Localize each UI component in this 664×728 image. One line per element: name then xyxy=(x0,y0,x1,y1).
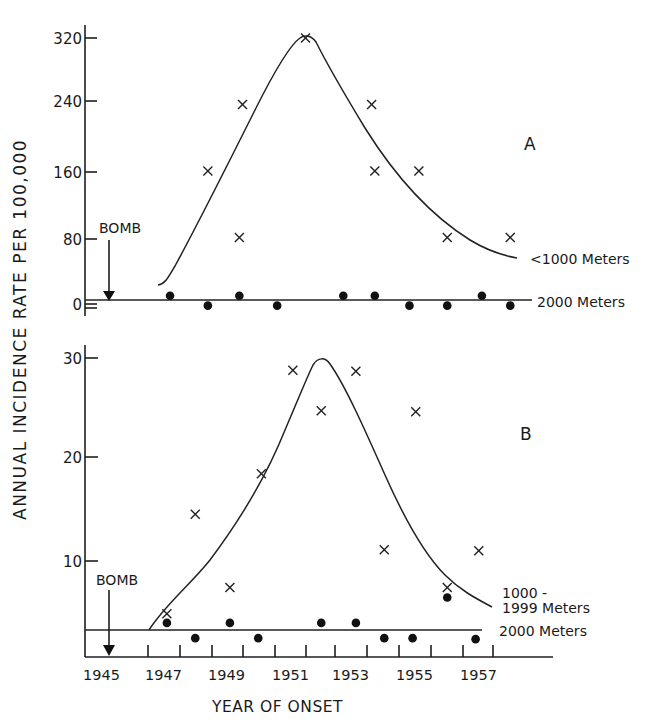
panel-b-fitted-curve xyxy=(149,359,492,630)
x-marker xyxy=(301,34,310,43)
dot-marker xyxy=(204,301,213,310)
panel-b-points xyxy=(162,366,483,644)
panel-a-y-ticks: 320 240 160 80 0 xyxy=(53,30,97,314)
panel-a: 320 240 160 80 0 BOMB A <1000 Meters 200… xyxy=(53,25,629,316)
panel-a-points xyxy=(166,34,515,310)
dot-marker xyxy=(380,634,389,643)
x-tick-label: 1949 xyxy=(208,667,245,683)
tick-label: 320 xyxy=(53,30,82,48)
x-tick-label: 1955 xyxy=(396,667,433,683)
legend-label-1000-1999m-line1: 1000 - xyxy=(502,585,547,601)
x-marker xyxy=(411,407,420,416)
x-marker xyxy=(474,546,483,555)
dot-marker xyxy=(235,291,244,300)
dot-marker xyxy=(163,619,172,628)
x-marker xyxy=(191,510,200,519)
dot-marker xyxy=(166,291,175,300)
tick-label: 20 xyxy=(63,449,82,467)
x-tick-label: 1947 xyxy=(145,667,182,683)
panel-a-fitted-curve xyxy=(158,36,517,285)
legend-label-1000-1999m-line2: 1999 Meters xyxy=(502,600,590,616)
dot-marker xyxy=(443,301,452,310)
tick-label: 0 xyxy=(72,296,82,314)
legend-label-2000m-a: 2000 Meters xyxy=(537,294,625,310)
panel-b-x-ticks: 1945 1947 1949 1951 1953 1955 1957 xyxy=(83,645,497,683)
x-tick-label: 1953 xyxy=(332,667,369,683)
x-marker xyxy=(367,100,376,109)
dot-marker xyxy=(405,301,414,310)
x-marker xyxy=(235,233,244,242)
tick-label: 80 xyxy=(63,231,82,249)
x-marker xyxy=(225,583,234,592)
dot-marker xyxy=(226,619,235,628)
x-marker xyxy=(370,167,379,176)
x-tick-label: 1945 xyxy=(83,667,120,683)
bomb-label: BOMB xyxy=(99,220,141,236)
x-marker xyxy=(238,100,247,109)
x-tick-label: 1951 xyxy=(272,667,309,683)
x-marker xyxy=(162,609,171,618)
panel-a-title: A xyxy=(524,134,536,154)
legend-label-2000m-b: 2000 Meters xyxy=(499,623,587,639)
x-marker xyxy=(288,366,297,375)
x-marker xyxy=(203,167,212,176)
dot-marker xyxy=(506,301,515,310)
x-marker xyxy=(506,233,515,242)
x-axis-label: YEAR OF ONSET xyxy=(211,698,343,716)
x-marker xyxy=(351,367,360,376)
dot-marker xyxy=(339,291,348,300)
x-marker xyxy=(443,233,452,242)
dot-marker xyxy=(371,291,380,300)
dot-marker xyxy=(408,634,417,643)
dot-marker xyxy=(191,634,200,643)
x-marker xyxy=(317,406,326,415)
panel-b-title: B xyxy=(520,424,532,444)
y-axis-label: ANNUAL INCIDENCE RATE PER 100,000 xyxy=(10,139,30,520)
x-marker xyxy=(380,545,389,554)
dot-marker xyxy=(254,634,263,643)
panel-b: 30 20 10 1945 1947 1949 1951 1953 1955 1… xyxy=(63,345,590,716)
chart-canvas: ANNUAL INCIDENCE RATE PER 100,000 320 24… xyxy=(0,0,664,728)
panel-b-y-ticks: 30 20 10 xyxy=(63,350,98,571)
dot-marker xyxy=(478,291,487,300)
x-tick-label: 1957 xyxy=(460,667,497,683)
tick-label: 10 xyxy=(63,553,82,571)
tick-label: 160 xyxy=(53,164,82,182)
incidence-figure: ANNUAL INCIDENCE RATE PER 100,000 320 24… xyxy=(0,0,664,728)
bomb-arrow-icon-b xyxy=(103,645,115,656)
dot-marker xyxy=(317,619,326,628)
dot-marker xyxy=(471,635,480,644)
tick-label: 30 xyxy=(63,350,82,368)
dot-marker xyxy=(273,301,282,310)
bomb-label-b: BOMB xyxy=(96,572,138,588)
dot-marker xyxy=(352,619,361,628)
legend-label-lt1000m: <1000 Meters xyxy=(530,251,630,267)
tick-label: 240 xyxy=(53,93,82,111)
dot-marker xyxy=(443,593,452,602)
x-marker xyxy=(414,167,423,176)
x-marker xyxy=(443,583,452,592)
